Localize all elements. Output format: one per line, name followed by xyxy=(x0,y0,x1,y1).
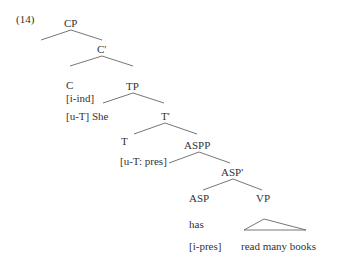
node-c-bar: C' xyxy=(97,43,106,55)
branch-cbar-left xyxy=(70,56,102,66)
example-number: (14) xyxy=(16,13,34,25)
tree-branches xyxy=(0,0,351,263)
c-feature-ut: [u-T] xyxy=(66,110,89,122)
node-tp: TP xyxy=(126,80,139,92)
branch-cbar-right xyxy=(102,56,133,66)
branch-tbar-left xyxy=(134,123,165,134)
subject-she: She xyxy=(92,110,109,122)
branch-aspp-right xyxy=(199,152,230,163)
branch-tp-left xyxy=(103,93,133,103)
asp-feature-ipres: [i-pres] xyxy=(189,240,221,252)
node-cp: CP xyxy=(64,17,77,29)
node-c: C xyxy=(66,79,73,91)
node-aspp: ASPP xyxy=(184,139,210,151)
node-vp: VP xyxy=(256,192,270,204)
node-t: T xyxy=(121,135,128,147)
node-t-bar: T' xyxy=(161,110,170,122)
branch-aspbar-right xyxy=(233,179,262,190)
branch-cp-right xyxy=(71,30,102,40)
t-feature-pres: [u-T: pres] xyxy=(120,155,167,167)
branch-cp-left xyxy=(41,30,71,40)
node-asp-bar: ASP' xyxy=(221,166,243,178)
vp-words: read many books xyxy=(241,240,316,252)
c-feature-ind: [i-ind] xyxy=(66,92,94,104)
branch-aspbar-left xyxy=(203,179,233,190)
vp-triangle xyxy=(244,219,306,230)
branch-tp-right xyxy=(133,93,164,103)
asp-word-has: has xyxy=(189,218,204,230)
node-asp: ASP xyxy=(189,192,209,204)
branch-aspp-left xyxy=(169,152,199,163)
branch-tbar-right xyxy=(165,123,197,134)
